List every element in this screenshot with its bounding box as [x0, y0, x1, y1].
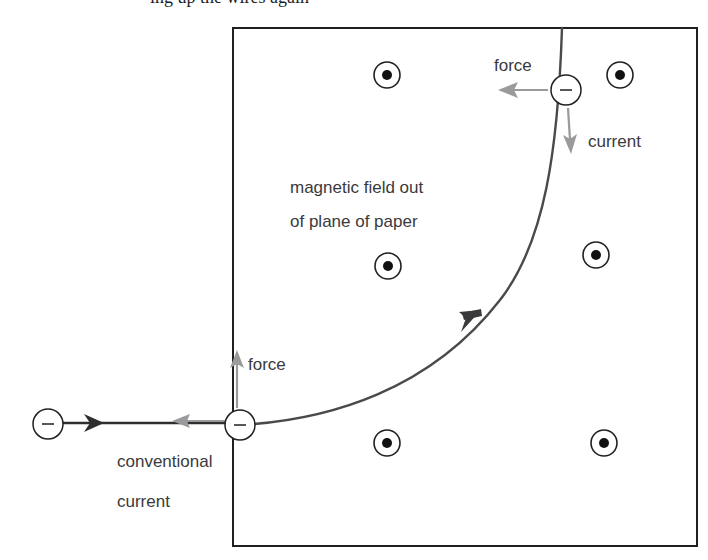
arrow-electron-velocity — [172, 414, 232, 428]
charge-marker-negative — [225, 410, 255, 440]
charge-marker-negative — [551, 75, 581, 105]
arrow-force-top — [498, 82, 548, 98]
label-magnetic-field-line2: of plane of paper — [290, 212, 418, 232]
charge-marker-negative — [33, 409, 63, 439]
field-out-of-page-icon — [607, 62, 633, 88]
field-out-of-page-markers — [374, 62, 633, 456]
diagram-canvas: ing up the wires again — [0, 0, 708, 560]
label-force-top: force — [494, 56, 532, 76]
field-out-of-page-icon — [375, 253, 401, 279]
physics-diagram-svg — [0, 0, 708, 560]
field-out-of-page-icon — [374, 62, 400, 88]
arrow-current-top — [563, 108, 577, 154]
charge-markers — [33, 75, 581, 440]
label-force-bottom: force — [248, 355, 286, 375]
field-out-of-page-icon — [583, 242, 609, 268]
label-current-top: current — [588, 132, 641, 152]
label-conventional-current-line2: current — [117, 492, 170, 512]
magnetic-field-box — [233, 28, 697, 546]
field-out-of-page-icon — [374, 430, 400, 456]
field-out-of-page-icon — [591, 430, 617, 456]
label-magnetic-field-line1: magnetic field out — [290, 178, 423, 198]
label-conventional-current-line1: conventional — [117, 452, 212, 472]
